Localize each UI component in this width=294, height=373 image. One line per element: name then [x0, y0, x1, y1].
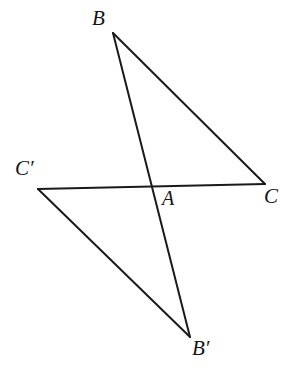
vertex-label-A: A — [162, 188, 174, 208]
vertex-label-B: B — [92, 8, 105, 29]
vertex-label-B-prime: B′ — [192, 338, 209, 359]
geometry-figure: B C′ A C B′ — [0, 0, 294, 373]
vertex-label-C-prime: C′ — [15, 158, 34, 179]
geometry-canvas — [0, 0, 294, 373]
vertex-label-C: C — [264, 186, 278, 207]
